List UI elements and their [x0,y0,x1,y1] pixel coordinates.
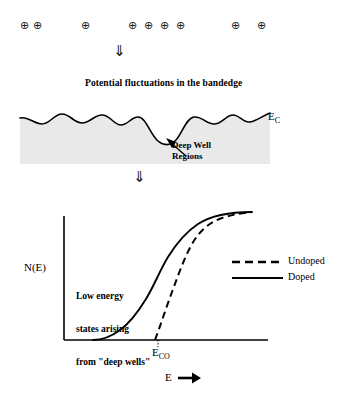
deep-well-line-2: Regions [172,151,211,162]
charge-symbol-1: ⊕ [20,20,29,31]
legend-label-undoped: Undoped [288,255,325,266]
charge-symbol-7: ⊕ [176,20,185,31]
x-axis-label: E [165,371,172,383]
deep-well-line-1: Deep Well [172,140,211,151]
x-axis-direction-arrow-icon [178,373,201,384]
charge-symbol-5: ⊕ [144,20,153,31]
ec-label-symbol: E [268,110,275,122]
deep-well-regions-label: Deep Well Regions [172,140,211,162]
band-edge-diagram: EC Deep Well Regions [0,96,340,176]
charge-symbol-3: ⊕ [81,20,90,31]
figure-root: ⊕⊕⊕⊕⊕⊕⊕⊕⊕ ⇓ Potential fluctuations in th… [0,0,340,402]
caption-potential-fluctuations: Potential fluctuations in the bandedge [85,78,242,88]
eco-threshold-label: ECO [152,346,170,361]
down-arrow-icon-top: ⇓ [113,44,126,59]
ec-label-subscript: C [275,116,280,125]
series-undoped-curve [155,212,252,340]
charge-symbol-2: ⊕ [33,20,42,31]
charge-symbol-4: ⊕ [128,20,137,31]
note-line-3: from "deep wells" [76,357,150,368]
eco-label-symbol: E [152,346,159,358]
note-line-1: Low energy [76,291,150,302]
note-line-2: states arising [76,324,150,335]
y-axis-label: N(E) [24,261,46,273]
density-of-states-plot: N(E) ECO E Low energy states arising fro… [0,200,340,402]
band-edge-svg [0,96,340,176]
legend-label-doped: Doped [288,271,315,282]
charge-symbol-6: ⊕ [160,20,169,31]
charge-symbol-9: ⊕ [257,20,266,31]
charge-symbol-8: ⊕ [231,20,240,31]
ec-label: EC [268,110,280,125]
eco-label-subscript: CO [159,352,170,361]
low-energy-states-note: Low energy states arising from "deep wel… [76,269,150,390]
down-arrow-icon-bottom: ⇓ [133,170,146,185]
